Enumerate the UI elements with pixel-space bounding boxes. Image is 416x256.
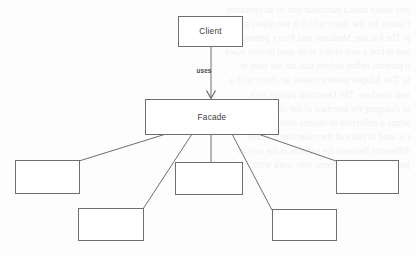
node-subsystem-5-box[interactable] <box>337 161 399 194</box>
node-client-label: Client <box>199 27 222 36</box>
node-subsystem-2[interactable] <box>79 209 144 241</box>
node-facade[interactable]: Facade <box>146 100 279 135</box>
node-group: Client Facade <box>16 17 399 241</box>
node-subsystem-2-box[interactable] <box>79 209 144 241</box>
node-subsystem-4-box[interactable] <box>273 210 337 241</box>
node-subsystem-1[interactable] <box>16 161 80 194</box>
facade-pattern-diagram: Client Facade us <box>0 0 416 256</box>
edge-facade-to-subsystem-5 <box>258 134 336 161</box>
node-subsystem-1-box[interactable] <box>16 161 80 194</box>
node-subsystem-3-box[interactable] <box>176 163 243 195</box>
node-subsystem-4[interactable] <box>273 210 337 241</box>
node-subsystem-5[interactable] <box>337 161 399 194</box>
node-subsystem-3[interactable] <box>176 163 243 195</box>
edge-facade-to-subsystem-1 <box>79 134 166 161</box>
edge-label-uses: uses <box>196 67 211 74</box>
node-client[interactable]: Client <box>179 17 243 47</box>
diagram-stage: ject which does a particular part of an … <box>0 0 416 256</box>
node-facade-label: Facade <box>198 113 227 122</box>
